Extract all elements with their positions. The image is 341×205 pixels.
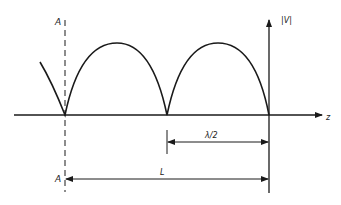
plane-label-top: A xyxy=(54,17,61,27)
x-axis-label: z xyxy=(325,113,331,122)
standing-wave-diagram: A A |V| z λ/2 L xyxy=(0,0,341,205)
length-label: L xyxy=(160,168,164,177)
y-axis-label: |V| xyxy=(281,16,292,25)
voltage-magnitude-curve xyxy=(40,43,269,115)
plane-label-bottom: A xyxy=(54,174,61,184)
half-wavelength-label: λ/2 xyxy=(204,131,218,140)
